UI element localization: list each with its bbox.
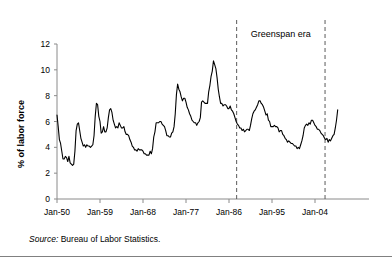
y-axis-tick-label: 12 bbox=[41, 39, 51, 49]
source-note-prefix: Source: bbox=[29, 234, 58, 244]
y-axis-tick-label: 4 bbox=[45, 142, 50, 152]
source-note: Source: Bureau of Labor Statistics. bbox=[29, 234, 160, 245]
x-axis-tick-label: Jan-95 bbox=[259, 207, 285, 217]
y-axis-tick-label: 8 bbox=[45, 91, 50, 101]
x-axis-tick-label: Jan-50 bbox=[44, 207, 70, 217]
chart-canvas: % of labor force 024681012 Jan-50Jan-59J… bbox=[0, 0, 392, 268]
x-axis-tick-label: Jan-77 bbox=[173, 207, 199, 217]
x-axis-tick-label: Jan-59 bbox=[87, 207, 113, 217]
y-axis-title: % of labor force bbox=[16, 100, 26, 168]
x-axis-ticks: Jan-50Jan-59Jan-68Jan-77Jan-86Jan-95Jan-… bbox=[44, 199, 328, 217]
x-axis-tick-label: Jan-04 bbox=[302, 207, 328, 217]
y-axis-tick-label: 0 bbox=[45, 194, 50, 204]
bottom-divider bbox=[0, 256, 392, 257]
greenspan-era-label-group: Greenspan era bbox=[251, 29, 311, 39]
y-axis-tick-label: 6 bbox=[45, 117, 50, 127]
unemployment-series bbox=[57, 61, 338, 166]
y-axis-ticks: 024681012 bbox=[41, 39, 57, 204]
annotation-label: Greenspan era bbox=[251, 29, 311, 39]
unemployment-line bbox=[57, 61, 338, 166]
source-note-text: Bureau of Labor Statistics. bbox=[58, 234, 160, 244]
greenspan-era-markers bbox=[237, 20, 325, 199]
y-axis-tick-label: 2 bbox=[45, 168, 50, 178]
x-axis-tick-label: Jan-86 bbox=[216, 207, 242, 217]
x-axis-tick-label: Jan-68 bbox=[130, 207, 156, 217]
y-axis-tick-label: 10 bbox=[41, 65, 51, 75]
unemployment-rate-figure: % of labor force 024681012 Jan-50Jan-59J… bbox=[0, 0, 392, 268]
y-axis-title-text: % of labor force bbox=[16, 100, 26, 168]
